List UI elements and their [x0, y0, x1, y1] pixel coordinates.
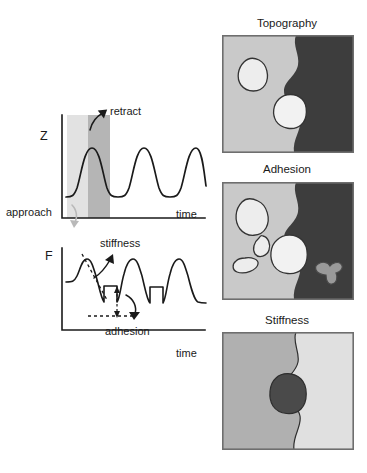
- z-plot-time-label: time: [176, 209, 197, 220]
- approach-arrow-head: [70, 220, 79, 228]
- adhesion-label: adhesion: [105, 326, 150, 337]
- map-title-stiffness: Stiffness: [222, 315, 352, 327]
- f-plot-time-label: time: [176, 348, 197, 359]
- adhesion-measure-arrow-down: [114, 311, 120, 318]
- approach-band: [67, 115, 88, 218]
- retract-label: retract: [110, 106, 141, 117]
- f-trace-curve: [66, 259, 206, 303]
- map-title-adhesion: Adhesion: [222, 164, 352, 176]
- figure-root: Z retract approach time F: [0, 0, 367, 473]
- stiffness-arrow-head: [105, 254, 114, 264]
- adhesion-arrow-shaft: [126, 295, 136, 314]
- stiffness-map: [222, 332, 354, 450]
- topography-map: [222, 35, 354, 153]
- adhesion-measure-arrow-up: [114, 286, 120, 293]
- topography-blob-upper-left: [238, 58, 267, 91]
- adhesion-map: [222, 182, 354, 300]
- approach-label: approach: [6, 207, 52, 218]
- adhesion-blob-upper-left: [236, 199, 268, 235]
- retract-band: [88, 115, 110, 218]
- stiffness-label: stiffness: [100, 238, 140, 249]
- stiffness-blob-center: [270, 374, 306, 414]
- map-title-topography: Topography: [222, 18, 352, 30]
- topography-blob-center: [274, 95, 307, 129]
- adhesion-blob-center: [271, 235, 307, 273]
